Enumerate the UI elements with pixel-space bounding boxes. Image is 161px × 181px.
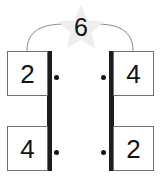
factor-card-left-top[interactable]: 2 [7, 51, 48, 96]
total-star-badge: 6 [58, 4, 104, 50]
multiplication-dot-bottom-right [101, 150, 106, 155]
factor-card-right-bottom[interactable]: 2 [113, 126, 154, 171]
multiplication-dot-bottom-left [54, 150, 59, 155]
factor-pairs-diagram: 6 2 4 4 2 [0, 0, 161, 181]
factor-card-left-bottom[interactable]: 4 [7, 126, 48, 171]
total-value: 6 [58, 4, 104, 50]
factor-card-right-top[interactable]: 4 [113, 51, 154, 96]
multiplication-dot-top-right [101, 75, 106, 80]
multiplication-dot-top-left [54, 75, 59, 80]
